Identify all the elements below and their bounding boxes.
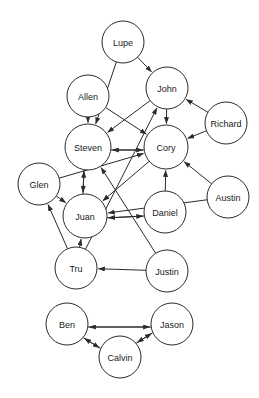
edge-richard-to-cory (188, 131, 207, 138)
node-cory[interactable]: Cory (144, 125, 188, 169)
node-jason[interactable]: Jason (151, 303, 193, 345)
node-label-cory: Cory (156, 143, 176, 153)
node-label-daniel: Daniel (152, 208, 178, 218)
edge-john-to-steven (108, 101, 151, 133)
node-justin[interactable]: Justin (146, 250, 188, 292)
node-allen[interactable]: Allen (67, 75, 109, 117)
node-label-allen: Allen (78, 92, 98, 102)
node-label-lupe: Lupe (113, 38, 133, 48)
node-lupe[interactable]: Lupe (102, 21, 144, 63)
edge-calvin-to-jason (136, 334, 151, 344)
edge-lupe-to-john (138, 57, 152, 72)
node-juan[interactable]: Juan (63, 194, 107, 238)
graph-canvas: LupeAllenJohnRichardStevenCoryGlenAustin… (0, 0, 259, 398)
edge-richard-to-john (186, 99, 208, 112)
node-label-ben: Ben (59, 320, 75, 330)
node-label-john: John (157, 84, 177, 94)
node-john[interactable]: John (146, 67, 188, 109)
node-label-richard: Richard (210, 119, 241, 129)
edge-glen-to-juan (56, 196, 65, 203)
node-glen[interactable]: Glen (18, 163, 60, 205)
node-austin[interactable]: Austin (207, 176, 249, 218)
network-diagram: LupeAllenJohnRichardStevenCoryGlenAustin… (0, 0, 259, 398)
node-label-tru: Tru (69, 264, 82, 274)
node-daniel[interactable]: Daniel (144, 191, 186, 233)
node-label-calvin: Calvin (107, 353, 132, 363)
node-label-justin: Justin (155, 267, 179, 277)
edge-calvin-to-ben (85, 338, 101, 348)
node-label-juan: Juan (75, 212, 95, 222)
node-richard[interactable]: Richard (205, 102, 247, 144)
node-tru[interactable]: Tru (55, 247, 97, 289)
edge-juan-to-steven (83, 171, 84, 194)
node-steven[interactable]: Steven (65, 124, 111, 170)
nodes-layer: LupeAllenJohnRichardStevenCoryGlenAustin… (18, 21, 249, 378)
edge-allen-to-cory (106, 107, 147, 134)
node-calvin[interactable]: Calvin (99, 336, 141, 378)
node-label-austin: Austin (215, 193, 240, 203)
node-label-glen: Glen (29, 180, 48, 190)
edge-daniel-to-juan (109, 216, 145, 218)
node-label-steven: Steven (74, 143, 102, 153)
node-ben[interactable]: Ben (46, 303, 88, 345)
edge-tru-to-juan (80, 239, 81, 247)
edge-austin-to-cory (184, 162, 211, 184)
edge-justin-to-tru (98, 269, 146, 271)
node-label-jason: Jason (160, 320, 184, 330)
